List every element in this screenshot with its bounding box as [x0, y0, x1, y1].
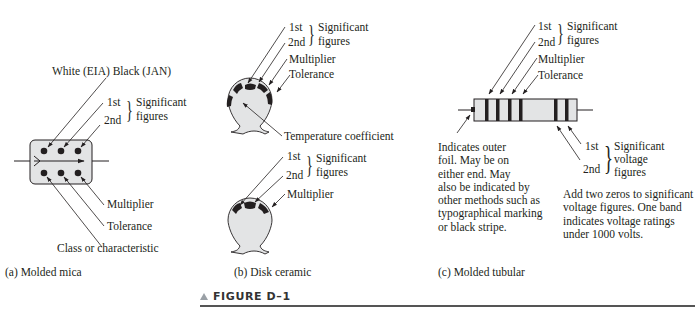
note-outer-foil: Indicates outer foil. May be on either e…: [438, 141, 542, 234]
label-figures: figures: [316, 166, 348, 179]
label-class: Class or characteristic: [57, 242, 159, 255]
brace: }: [308, 21, 315, 47]
label-second: 2nd: [104, 114, 121, 127]
label-figures: figures: [614, 166, 646, 179]
label-voltage-first: 1st: [585, 140, 598, 153]
label-significant: Significant: [567, 20, 617, 33]
figure-rule: [200, 305, 695, 307]
label-significant: Significant: [316, 152, 366, 165]
label-multiplier: Multiplier: [289, 53, 336, 66]
label-significant: Significant: [136, 96, 186, 109]
brace: }: [306, 152, 313, 178]
caption-disk-ceramic: (b) Disk ceramic: [234, 266, 311, 278]
label-first: 1st: [107, 96, 120, 109]
label-multiplier: Multiplier: [287, 188, 334, 201]
label-voltage: voltage: [614, 153, 648, 166]
label-voltage-second: 2nd: [583, 163, 600, 176]
label-tolerance: Tolerance: [289, 68, 334, 81]
label-tolerance: Tolerance: [538, 69, 583, 82]
triangle-icon: [200, 293, 208, 300]
disk-ceramic-capacitor-top: [227, 27, 290, 136]
label-multiplier: Multiplier: [107, 198, 154, 211]
label-first: 1st: [289, 21, 302, 34]
figure-label-text: FIGURE D–1: [213, 290, 291, 303]
caption-molded-tubular: (c) Molded tubular: [438, 266, 525, 278]
label-figures: figures: [318, 35, 350, 48]
label-significant: Significant: [318, 21, 368, 34]
label-tolerance: Tolerance: [107, 220, 152, 233]
brace: }: [604, 141, 613, 175]
label-temperature-coefficient: Temperature coefficient: [284, 130, 394, 143]
label-second: 2nd: [538, 36, 555, 49]
label-white-black: White (EIA) Black (JAN): [52, 65, 171, 78]
label-figures: figures: [567, 34, 599, 47]
brace: }: [557, 20, 564, 46]
label-first: 1st: [538, 20, 551, 33]
label-first: 1st: [287, 150, 300, 163]
label-significant: Significant: [614, 140, 664, 153]
label-second: 2nd: [286, 169, 303, 182]
disk-ceramic-capacitor-bottom: [228, 157, 285, 254]
figure-label: FIGURE D–1: [200, 290, 291, 303]
label-figures: figures: [136, 110, 168, 123]
label-second: 2nd: [288, 36, 305, 49]
caption-molded-mica: (a) Molded mica: [5, 266, 82, 278]
brace: }: [126, 97, 133, 123]
note-voltage: Add two zeros to significant voltage fig…: [563, 188, 693, 241]
molded-mica-capacitor: [14, 78, 109, 247]
label-multiplier: Multiplier: [538, 53, 585, 66]
